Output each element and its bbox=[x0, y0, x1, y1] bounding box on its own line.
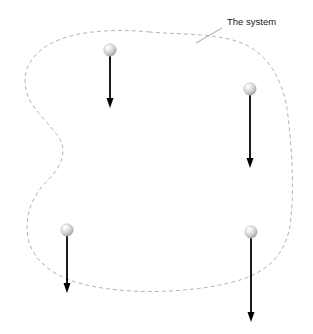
sphere-2 bbox=[244, 83, 256, 168]
system-diagram: The system bbox=[0, 0, 313, 334]
particle-sphere bbox=[104, 44, 116, 56]
system-label: The system bbox=[227, 16, 276, 27]
particle-sphere bbox=[244, 83, 256, 95]
label-leader-line bbox=[196, 28, 222, 43]
particle-sphere bbox=[61, 224, 73, 236]
force-arrow-head bbox=[248, 312, 255, 322]
particles-group bbox=[61, 44, 257, 322]
force-arrow-head bbox=[247, 158, 254, 168]
force-arrow-head bbox=[64, 283, 71, 293]
sphere-4 bbox=[245, 226, 257, 322]
figure-canvas: The system bbox=[0, 0, 313, 334]
sphere-1 bbox=[104, 44, 116, 108]
sphere-3 bbox=[61, 224, 73, 293]
particle-sphere bbox=[245, 226, 257, 238]
force-arrow-head bbox=[107, 98, 114, 108]
